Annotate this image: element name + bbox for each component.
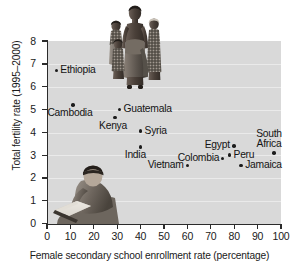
gridline-1 <box>47 201 281 202</box>
y-axis-line <box>47 40 48 225</box>
x-tick-label-40: 40 <box>129 230 153 242</box>
x-tick-80 <box>234 224 235 229</box>
y-tick-4 <box>42 132 47 133</box>
data-label-colombia: Colombia <box>178 153 220 164</box>
x-tick-20 <box>93 224 94 229</box>
y-tick-6 <box>42 86 47 87</box>
data-label-south-africa: SouthAfrica <box>247 129 291 150</box>
x-tick-label-80: 80 <box>222 230 246 242</box>
data-point-egypt[interactable] <box>232 144 236 148</box>
x-tick-10 <box>70 224 71 229</box>
x-tick-label-70: 70 <box>199 230 223 242</box>
gridline-6 <box>47 87 281 88</box>
data-point-jamaica[interactable] <box>239 164 243 168</box>
x-tick-70 <box>210 224 211 229</box>
x-axis-title: Female secondary school enrollment rate … <box>0 250 299 261</box>
y-tick-8 <box>42 40 47 41</box>
data-label-india: India <box>125 150 146 161</box>
data-label-guatemala: Guatemala <box>124 104 172 115</box>
x-tick-30 <box>117 224 118 229</box>
data-point-south-africa[interactable] <box>272 151 276 155</box>
x-tick-label-10: 10 <box>58 230 82 242</box>
data-label-south-africa-line2: Africa <box>247 139 291 150</box>
x-tick-60 <box>187 224 188 229</box>
y-tick-1 <box>42 200 47 201</box>
x-tick-label-60: 60 <box>175 230 199 242</box>
data-label-egypt: Egypt <box>205 140 230 151</box>
y-tick-7 <box>42 63 47 64</box>
y-tick-3 <box>42 155 47 156</box>
data-label-jamaica: Jamaica <box>245 160 282 171</box>
data-label-syria: Syria <box>145 126 167 137</box>
x-tick-50 <box>163 224 164 229</box>
y-tick-5 <box>42 109 47 110</box>
data-point-kenya[interactable] <box>113 116 117 120</box>
y-tick-label-7: 7 <box>22 57 36 69</box>
data-label-kenya: Kenya <box>99 121 127 132</box>
x-tick-100 <box>280 224 281 229</box>
y-tick-2 <box>42 177 47 178</box>
y-tick-label-2: 2 <box>22 171 36 183</box>
x-tick-label-90: 90 <box>246 230 270 242</box>
y-tick-label-5: 5 <box>22 103 36 115</box>
scatter-chart: 012345678 0102030405060708090100 Total f… <box>0 0 299 274</box>
y-tick-label-3: 3 <box>22 149 36 161</box>
y-tick-label-6: 6 <box>22 80 36 92</box>
x-tick-label-30: 30 <box>105 230 129 242</box>
y-tick-label-1: 1 <box>22 194 36 206</box>
x-tick-label-0: 0 <box>35 230 59 242</box>
y-tick-label-4: 4 <box>22 126 36 138</box>
y-tick-label-8: 8 <box>22 35 36 47</box>
x-tick-0 <box>46 224 47 229</box>
gridline-2 <box>47 178 281 179</box>
y-tick-label-0: 0 <box>22 217 36 229</box>
data-label-cambodia: Cambodia <box>47 108 92 119</box>
x-tick-90 <box>257 224 258 229</box>
x-tick-label-20: 20 <box>82 230 106 242</box>
y-axis-title: Total fertility rate (1995–2000) <box>11 21 22 191</box>
x-tick-label-50: 50 <box>152 230 176 242</box>
x-tick-label-100: 100 <box>269 230 293 242</box>
x-tick-40 <box>140 224 141 229</box>
data-label-ethiopia: Ethiopia <box>60 65 95 76</box>
